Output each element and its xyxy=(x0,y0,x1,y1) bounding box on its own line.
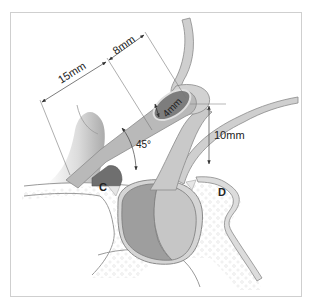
anatomical-diagram: 15mm 8mm 4mm 45° 10mm C D xyxy=(0,0,313,307)
label-45-degree: 45° xyxy=(136,139,151,150)
label-d: D xyxy=(218,186,226,198)
label-10mm: 10mm xyxy=(214,129,245,141)
label-c: C xyxy=(99,181,107,193)
